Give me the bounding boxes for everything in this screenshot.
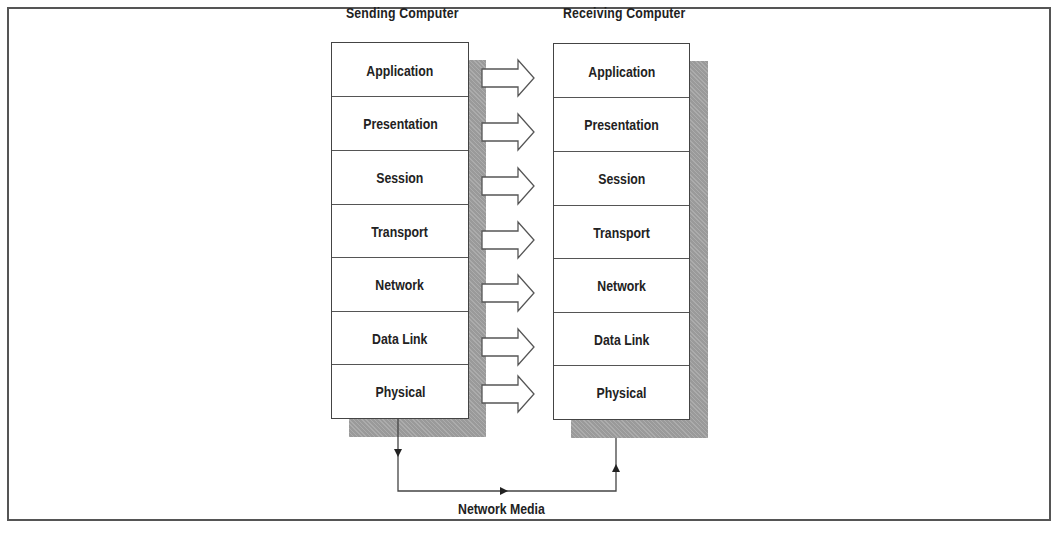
arrow-down-icon — [394, 449, 402, 457]
layer-arrow-icon — [482, 168, 534, 204]
connections-overlay — [0, 0, 1057, 533]
layer-arrow-icon — [482, 222, 534, 258]
layer-arrow-icon — [482, 376, 534, 412]
layer-arrow-icon — [482, 329, 534, 365]
arrow-up-icon — [612, 464, 620, 472]
layer-arrow-icon — [482, 114, 534, 150]
arrow-right-icon — [500, 487, 508, 495]
layer-arrow-icon — [482, 60, 534, 96]
layer-arrow-icon — [482, 275, 534, 311]
network-media-label: Network Media — [458, 500, 545, 517]
network-media-line — [398, 419, 616, 491]
